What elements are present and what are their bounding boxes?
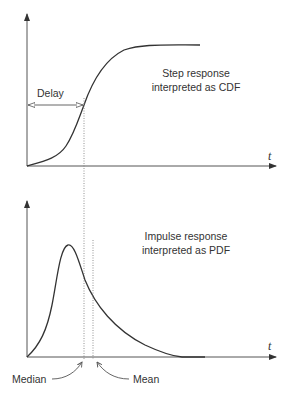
pdf-title-line2: interpreted as PDF: [142, 244, 230, 256]
mean-pointer-arrow: [97, 362, 129, 379]
delay-label: Delay: [37, 87, 65, 99]
pdf-curve: [27, 245, 205, 357]
cdf-pdf-diagram: t Delay Step response interpreted as CDF…: [0, 0, 294, 400]
bottom-t-label: t: [268, 339, 272, 353]
cdf-curve: [27, 45, 200, 166]
bottom-panel: t Impulse response interpreted as PDF Me…: [12, 201, 276, 385]
pdf-title-line1: Impulse response: [145, 230, 228, 242]
median-label: Median: [12, 373, 47, 385]
cdf-title-line1: Step response: [162, 67, 230, 79]
cdf-title-line2: interpreted as CDF: [152, 81, 241, 93]
top-t-label: t: [268, 149, 272, 163]
mean-label: Mean: [133, 373, 159, 385]
median-pointer-arrow: [52, 362, 82, 379]
top-panel: t Delay Step response interpreted as CDF: [27, 14, 276, 166]
